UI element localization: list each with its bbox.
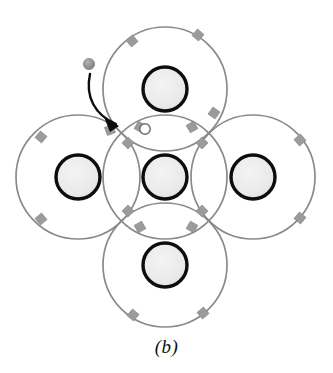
figure-caption: (b) xyxy=(0,336,333,358)
center-atom xyxy=(143,155,187,199)
core-center-atom xyxy=(143,155,187,199)
left-atom xyxy=(56,155,100,199)
electron-marker-right-outer-top xyxy=(294,134,306,146)
core-right-atom xyxy=(231,155,275,199)
hole-vacancy xyxy=(140,124,150,134)
figure-root: (b) xyxy=(0,0,333,373)
right-atom xyxy=(231,155,275,199)
core-left-atom xyxy=(56,155,100,199)
top-atom xyxy=(143,67,187,111)
covalent-bond-lattice-diagram xyxy=(0,0,333,373)
core-top-atom xyxy=(143,67,187,111)
free-electron xyxy=(83,58,94,69)
electron-marker-top-shell-right xyxy=(208,107,220,119)
electron-marker-bottom-outer-left xyxy=(127,309,139,321)
core-bottom-atom xyxy=(143,243,187,287)
electron-marker-top-outer-left xyxy=(126,35,138,47)
electron-marker-left-outer-top xyxy=(35,131,47,143)
bottom-atom xyxy=(143,243,187,287)
atom-core-group xyxy=(56,67,275,287)
